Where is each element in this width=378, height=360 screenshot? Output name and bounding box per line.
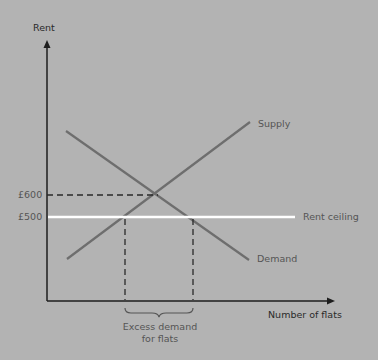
supply-curve (67, 122, 250, 259)
y-axis-label: Rent (33, 22, 55, 33)
excess-demand-line2: for flats (120, 333, 200, 345)
y-axis-arrow-icon (44, 40, 51, 48)
tick-label-500: £500 (18, 211, 42, 222)
tick-label-600: £600 (18, 189, 42, 200)
chart-canvas (0, 0, 378, 360)
rent-ceiling-label: Rent ceiling (303, 211, 359, 222)
supply-label: Supply (258, 118, 290, 129)
excess-demand-brace (125, 308, 193, 317)
demand-label: Demand (257, 253, 297, 264)
x-axis-arrow-icon (327, 298, 335, 305)
excess-demand-label: Excess demand for flats (120, 321, 200, 345)
excess-demand-line1: Excess demand (120, 321, 200, 333)
x-axis-label: Number of flats (268, 309, 342, 320)
